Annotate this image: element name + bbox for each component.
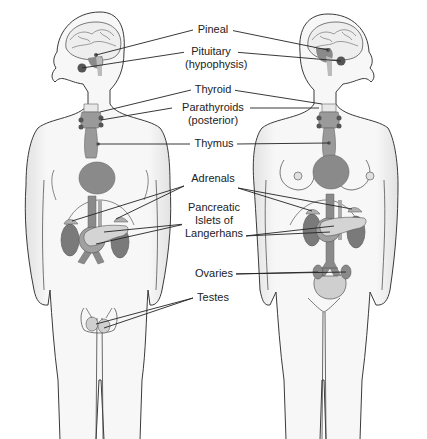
label-pituitary-line2: (hypophysis): [185, 58, 237, 71]
label-parathyroids: Parathyroids (posterior): [176, 101, 250, 127]
label-testes: Testes: [193, 291, 233, 304]
label-pancreatic-line1: Pancreatic: [183, 201, 245, 214]
label-thymus-text: Thymus: [192, 137, 236, 150]
label-thyroid-text: Thyroid: [192, 83, 234, 96]
label-ovaries: Ovaries: [192, 267, 236, 280]
label-ovaries-text: Ovaries: [193, 267, 235, 280]
label-pancreatic-line2: Islets of: [183, 214, 245, 227]
label-thyroid: Thyroid: [191, 83, 235, 96]
label-adrenals: Adrenals: [186, 172, 240, 185]
label-pituitary: Pituitary (hypophysis): [184, 45, 238, 71]
female-heart: [313, 155, 349, 189]
label-adrenals-text: Adrenals: [187, 172, 239, 185]
label-pancreatic-islets: Pancreatic Islets of Langerhans: [182, 201, 246, 240]
label-pineal-text: Pineal: [194, 23, 232, 36]
male-thymus: [85, 128, 98, 158]
label-pancreatic-line3: Langerhans: [183, 227, 245, 240]
label-pineal: Pineal: [193, 23, 233, 36]
label-pituitary-line1: Pituitary: [185, 45, 237, 58]
male-figure: [25, 12, 170, 439]
label-testes-text: Testes: [194, 291, 232, 304]
male-heart: [79, 162, 115, 194]
label-thymus: Thymus: [191, 137, 237, 150]
male-kidney-left: [61, 224, 79, 256]
label-parathyroids-line2: (posterior): [177, 114, 249, 127]
male-parathyroid: [79, 118, 84, 123]
label-parathyroids-line1: Parathyroids: [177, 101, 249, 114]
